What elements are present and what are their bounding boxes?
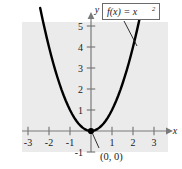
graph-canvas: -3 -2 -1 1 2 3 5 4 3 2 1 -1 x y (0, 0) f… bbox=[0, 0, 182, 169]
x-tick-label--2: -2 bbox=[45, 137, 53, 148]
x-tick-label-3: 3 bbox=[152, 137, 157, 148]
y-tick-label-4: 4 bbox=[78, 42, 83, 53]
y-tick-label-3: 3 bbox=[78, 63, 83, 74]
x-tick-label--3: -3 bbox=[24, 137, 32, 148]
y-tick-label-5: 5 bbox=[78, 21, 83, 32]
vertex-point-marker bbox=[88, 128, 94, 134]
y-tick-label-1: 1 bbox=[78, 105, 83, 116]
x-tick-label-1: 1 bbox=[110, 137, 115, 148]
function-graph-figure: -3 -2 -1 1 2 3 5 4 3 2 1 -1 x y (0, 0) f… bbox=[0, 0, 182, 169]
function-label-text: f(x) = x bbox=[107, 6, 138, 18]
y-tick-label--1: -1 bbox=[75, 147, 83, 158]
vertex-point-label: (0, 0) bbox=[100, 151, 123, 163]
x-axis-label: x bbox=[172, 125, 178, 136]
x-tick-label--1: -1 bbox=[66, 137, 74, 148]
plot-area-background bbox=[22, 22, 168, 152]
y-tick-label-2: 2 bbox=[78, 84, 83, 95]
x-tick-label-2: 2 bbox=[131, 137, 136, 148]
y-axis-label: y bbox=[94, 4, 100, 15]
